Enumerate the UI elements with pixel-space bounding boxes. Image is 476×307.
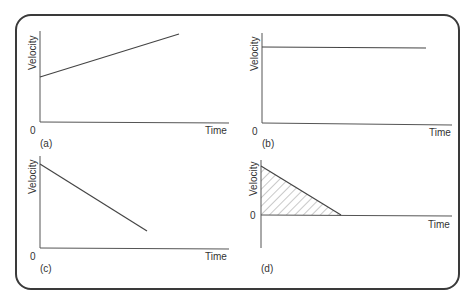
origin-label: 0 (30, 251, 36, 262)
panel-label: (d) (261, 263, 273, 274)
panel-d: Velocity Time 0 (d) (248, 160, 452, 274)
x-axis-label: Time (205, 125, 227, 136)
origin-label: 0 (252, 126, 258, 137)
origin-label: 0 (250, 210, 256, 221)
panel-label: (a) (40, 138, 52, 149)
graphs-canvas: Velocity Time 0 (a) Velocity Time 0 (b) … (0, 0, 476, 307)
panel-a: Velocity Time 0 (a) (27, 31, 229, 149)
velocity-time-figure: Velocity Time 0 (a) Velocity Time 0 (b) … (0, 0, 476, 307)
y-axis-label: Velocity (27, 36, 38, 70)
panel-label: (c) (40, 263, 52, 274)
origin-label: 0 (30, 125, 36, 136)
x-axis-label: Time (428, 219, 450, 230)
y-axis-label: Velocity (248, 162, 259, 196)
x-axis (40, 248, 229, 249)
x-axis-label: Time (205, 251, 227, 262)
velocity-line (40, 34, 179, 77)
x-axis (262, 123, 452, 125)
panel-c: Velocity Time 0 (c) (27, 156, 229, 274)
y-axis-label: Velocity (27, 160, 38, 194)
velocity-line (262, 47, 426, 48)
x-axis-label: Time (429, 127, 451, 138)
panel-b: Velocity Time 0 (b) (249, 33, 452, 149)
y-axis-label: Velocity (249, 37, 260, 71)
x-axis (40, 122, 229, 123)
panel-label: (b) (262, 138, 274, 149)
x-axis (261, 215, 452, 216)
velocity-line (40, 164, 147, 231)
